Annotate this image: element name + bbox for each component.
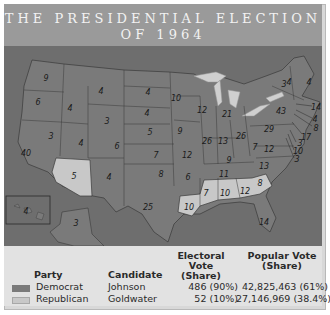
- header-electoral-line1: Electoral Vote: [164, 251, 238, 271]
- state-label-iowa: 9: [177, 127, 182, 136]
- state-label-kansas: 7: [153, 151, 158, 160]
- state-label-minnesota: 10: [171, 94, 181, 103]
- democrat-swatch: [12, 285, 30, 292]
- candidate-johnson: Johnson: [108, 281, 145, 292]
- header-popular-line2: (Share): [244, 261, 320, 271]
- state-label-north-carolina: 13: [259, 162, 269, 171]
- popular-goldwater: 27,146,969 (38.4%): [236, 293, 320, 304]
- header-electoral-line2: (Share): [164, 271, 238, 281]
- header-party: Party: [34, 270, 63, 280]
- party-republican: Republican: [36, 293, 88, 304]
- state-label-washington: 9: [43, 74, 48, 83]
- state-label-michigan: 21: [222, 110, 232, 119]
- state-label-ohio: 26: [236, 132, 246, 141]
- state-label-alabama: 10: [220, 189, 230, 198]
- republican-swatch: [12, 297, 30, 304]
- state-label-new-hampshire: 4: [286, 78, 291, 87]
- state-label-west-virginia: 7: [252, 143, 257, 152]
- state-label-texas: 25: [143, 203, 153, 212]
- state-label-illinois: 26: [202, 137, 212, 146]
- state-label-alaska: 3: [73, 219, 78, 228]
- header-candidate: Candidate: [108, 270, 162, 280]
- state-label-connecticut: 8: [313, 124, 318, 133]
- state-label-california: 40: [21, 149, 31, 158]
- state-label-idaho: 4: [67, 104, 72, 113]
- state-label-wyoming: 3: [104, 117, 109, 126]
- state-label-rhode-island: 4: [312, 115, 317, 124]
- state-label-pennsylvania: 29: [264, 125, 274, 134]
- state-label-mississippi: 7: [203, 189, 208, 198]
- party-democrat: Democrat: [36, 281, 83, 292]
- us-electoral-map: 9640434346544457825109126101226211326911…: [4, 46, 322, 246]
- header-electoral-vote: Electoral Vote (Share): [164, 251, 238, 281]
- state-label-arizona: 5: [71, 172, 76, 181]
- state-label-new-york: 43: [276, 107, 286, 116]
- state-label-florida: 14: [259, 218, 269, 227]
- state-label-oklahoma: 8: [158, 170, 163, 179]
- state-label-south-dakota: 4: [144, 109, 149, 118]
- hawaii-islands-shape: [14, 204, 44, 220]
- state-label-kentucky: 9: [226, 156, 231, 165]
- electoral-goldwater: 52 (10%): [176, 293, 238, 304]
- electoral-johnson: 486 (90%): [176, 281, 238, 292]
- state-label-north-dakota: 4: [145, 88, 150, 97]
- state-label-tennessee: 11: [219, 170, 229, 179]
- state-label-nebraska: 5: [147, 128, 152, 137]
- state-label-utah: 4: [78, 139, 83, 148]
- title-line-1: THE PRESIDENTIAL ELECTION: [4, 11, 322, 26]
- state-label-louisiana: 10: [184, 203, 194, 212]
- state-label-montana: 4: [98, 87, 103, 96]
- state-label-colorado: 6: [114, 142, 119, 151]
- state-label-virginia: 12: [264, 145, 274, 154]
- state-label-nevada: 3: [48, 132, 53, 141]
- state-label-south-carolina: 8: [257, 179, 262, 188]
- state-label-indiana: 13: [218, 137, 228, 146]
- state-label-new-mexico: 4: [106, 173, 111, 182]
- title-line-2: OF 1964: [4, 27, 322, 42]
- legend-table: Party Candidate Electoral Vote (Share) P…: [4, 246, 322, 306]
- state-label-hawaii: 4: [23, 207, 28, 216]
- map-shapes: [4, 46, 322, 246]
- title-bar: THE PRESIDENTIAL ELECTION OF 1964: [4, 4, 322, 46]
- state-label-arkansas: 6: [185, 173, 190, 182]
- header-popular-vote: Popular Vote (Share): [244, 251, 320, 271]
- popular-johnson: 42,825,463 (61%): [242, 281, 320, 292]
- state-label-missouri: 12: [182, 151, 192, 160]
- candidate-goldwater: Goldwater: [108, 293, 157, 304]
- state-label-district-of-columbia: 3: [294, 155, 299, 164]
- state-label-massachusetts: 14: [311, 103, 321, 112]
- state-label-wisconsin: 12: [197, 106, 207, 115]
- state-label-georgia: 12: [240, 187, 250, 196]
- state-label-maine: 4: [306, 78, 311, 87]
- state-label-oregon: 6: [35, 98, 40, 107]
